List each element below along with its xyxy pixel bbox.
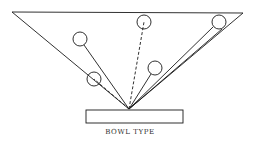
circle-upper-left — [73, 32, 87, 46]
diagram-caption: BOWL TYPE — [0, 128, 254, 136]
bowl-outline — [12, 12, 243, 109]
bowl-type-diagram — [0, 0, 254, 146]
circle-mid-right — [148, 61, 162, 75]
circle-top-right — [212, 15, 226, 29]
base-block — [86, 110, 183, 123]
rod-solid-right-a — [129, 27, 213, 109]
rod-solid-right-b — [129, 29, 222, 109]
